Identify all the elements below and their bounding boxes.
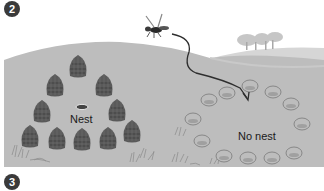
wasp-icon bbox=[145, 14, 169, 38]
step-badge-3: 3 bbox=[4, 174, 20, 190]
wasp-experiment-illustration bbox=[0, 0, 324, 191]
nest-hole-icon bbox=[76, 104, 88, 109]
step-badge-2: 2 bbox=[4, 1, 20, 17]
no-nest-label: No nest bbox=[238, 130, 276, 142]
nest-label: Nest bbox=[70, 113, 93, 125]
trees bbox=[237, 32, 283, 50]
